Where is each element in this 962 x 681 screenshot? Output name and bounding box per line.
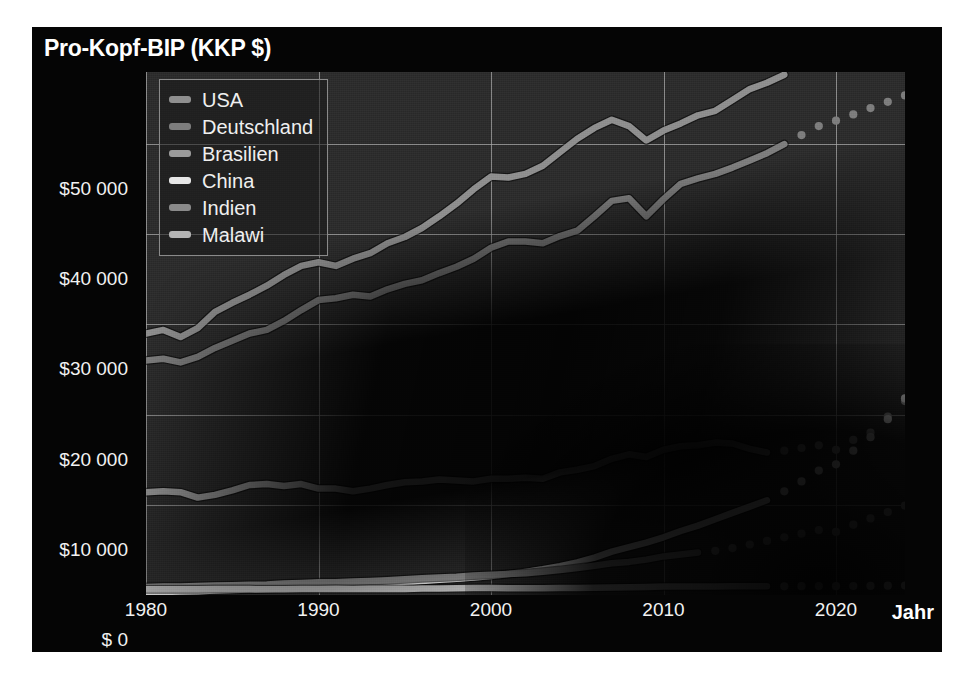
legend-item-label: Deutschland: [202, 117, 313, 137]
series-brasilien: [146, 397, 905, 498]
forecast-dot: [815, 582, 823, 590]
legend-item-brasilien[interactable]: Brasilien: [169, 140, 313, 167]
forecast-dot: [797, 582, 805, 590]
forecast-dot: [884, 582, 892, 590]
forecast-dot: [884, 415, 892, 423]
series-china: [146, 394, 905, 592]
x-axis-tick-labels: Jahr 19801990200020102020: [146, 599, 942, 639]
legend-item-label: China: [202, 171, 254, 191]
forecast-dot: [797, 530, 805, 538]
x-axis-tick-label: 1990: [297, 599, 339, 621]
forecast-dot: [849, 110, 857, 118]
y-axis-tick-labels: $50 000$40 000$30 000$20 000$10 000$ 0: [32, 72, 136, 595]
forecast-dot: [866, 104, 874, 112]
forecast-dot: [901, 581, 905, 589]
forecast-dot: [832, 446, 840, 454]
legend-item-indien[interactable]: Indien: [169, 194, 313, 221]
forecast-dot: [849, 447, 857, 455]
legend-item-label: Malawi: [202, 225, 264, 245]
legend-item-label: Indien: [202, 198, 257, 218]
forecast-dot: [797, 477, 805, 485]
legend-swatch-icon: [169, 177, 191, 184]
legend-item-deutschland[interactable]: Deutschland: [169, 113, 313, 140]
forecast-dot: [832, 582, 840, 590]
chart-panel: Pro-Kopf-BIP (KKP $) $50 000$40 000$30 0…: [32, 27, 942, 652]
legend-swatch-icon: [169, 96, 191, 103]
y-axis-tick-label: $30 000: [59, 358, 128, 380]
forecast-dot: [832, 117, 840, 125]
forecast-dot: [832, 528, 840, 536]
forecast-dot: [797, 444, 805, 452]
forecast-dot: [849, 582, 857, 590]
legend-item-malawi[interactable]: Malawi: [169, 221, 313, 248]
forecast-dot: [711, 547, 719, 555]
y-axis-tick-label: $50 000: [59, 178, 128, 200]
forecast-dot: [815, 122, 823, 130]
forecast-dot: [866, 514, 874, 522]
legend-swatch-icon: [169, 231, 191, 238]
forecast-dot: [797, 131, 805, 139]
legend-item-usa[interactable]: USA: [169, 86, 313, 113]
forecast-dot: [884, 508, 892, 516]
forecast-dot: [746, 540, 754, 548]
forecast-dot: [901, 91, 905, 99]
forecast-dot: [832, 460, 840, 468]
forecast-dot: [815, 441, 823, 449]
forecast-dot: [901, 502, 905, 510]
y-axis-tick-label: $40 000: [59, 268, 128, 290]
forecast-dot: [815, 467, 823, 475]
page-title: Pro-Kopf-BIP (KKP $): [44, 35, 271, 62]
forecast-dot: [728, 544, 736, 552]
forecast-dot: [815, 526, 823, 534]
forecast-dot: [884, 98, 892, 106]
forecast-dot: [780, 582, 788, 590]
forecast-dot: [780, 487, 788, 495]
x-axis-tick-label: 1980: [125, 599, 167, 621]
legend: USADeutschlandBrasilienChinaIndienMalawi: [159, 79, 328, 256]
forecast-dot: [866, 582, 874, 590]
legend-item-china[interactable]: China: [169, 167, 313, 194]
forecast-dot: [763, 537, 771, 545]
x-axis-title: Jahr: [892, 601, 934, 624]
x-axis-tick-label: 2010: [642, 599, 684, 621]
forecast-dot: [780, 533, 788, 541]
legend-item-label: Brasilien: [202, 144, 279, 164]
x-axis-tick-label: 2020: [815, 599, 857, 621]
forecast-dot: [849, 436, 857, 444]
x-axis-tick-label: 2000: [470, 599, 512, 621]
legend-swatch-icon: [169, 150, 191, 157]
y-axis-tick-label: $ 0: [102, 629, 128, 651]
y-axis-tick-label: $10 000: [59, 539, 128, 561]
forecast-dot: [780, 447, 788, 455]
forecast-dot: [866, 433, 874, 441]
legend-swatch-icon: [169, 123, 191, 130]
legend-item-label: USA: [202, 90, 243, 110]
plot-area: USADeutschlandBrasilienChinaIndienMalawi: [146, 72, 905, 595]
chart-screenshot: Pro-Kopf-BIP (KKP $) $50 000$40 000$30 0…: [0, 0, 962, 681]
series-indien: [146, 502, 905, 587]
y-axis-tick-label: $20 000: [59, 449, 128, 471]
legend-swatch-icon: [169, 204, 191, 211]
forecast-dot: [849, 521, 857, 529]
